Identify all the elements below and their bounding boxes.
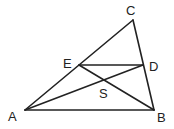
label-B: B — [157, 111, 166, 124]
segment-AD — [25, 65, 143, 110]
triangle-diagram — [0, 0, 174, 129]
label-C: C — [126, 4, 135, 17]
label-E: E — [63, 57, 72, 70]
label-D: D — [149, 60, 158, 73]
segment-EB — [79, 65, 154, 110]
label-S: S — [99, 87, 108, 100]
label-A: A — [8, 110, 17, 123]
